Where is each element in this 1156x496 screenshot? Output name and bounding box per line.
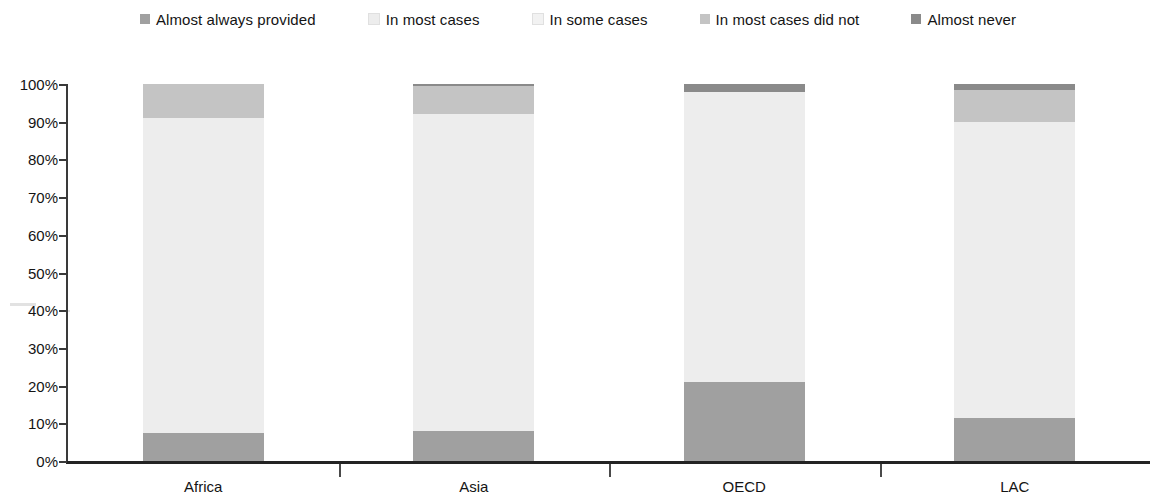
y-axis-tick-label: 20% [28, 377, 58, 394]
y-axis-tick-label: 100% [20, 76, 58, 93]
bar-segment[interactable] [413, 431, 534, 461]
square-swatch-icon [368, 13, 380, 25]
legend-item-label: Almost always provided [156, 11, 316, 28]
legend-item: Almost never [911, 11, 1016, 28]
square-swatch-icon [700, 14, 710, 24]
legend-item-label: In most cases did not [716, 11, 860, 28]
x-axis-category-labels: AfricaAsiaOECDLAC [68, 478, 1150, 495]
y-axis-tick-labels: 0%10%20%30%40%50%60%70%80%90%100% [0, 84, 58, 461]
stacked-bar[interactable] [143, 84, 264, 461]
bar-group [339, 84, 610, 461]
bar-segment[interactable] [954, 90, 1075, 122]
stacked-bar[interactable] [413, 84, 534, 461]
y-axis-tick-mark [59, 348, 67, 350]
legend-item: In most cases did not [700, 11, 860, 28]
bar-segment[interactable] [143, 118, 264, 433]
legend-item: Almost always provided [140, 11, 316, 28]
legend-item: In some cases [532, 11, 648, 28]
y-axis-tick-label: 40% [28, 302, 58, 319]
y-axis-tick-label: 60% [28, 226, 58, 243]
bar-segment[interactable] [143, 433, 264, 461]
stacked-bar[interactable] [684, 84, 805, 461]
bar-segment[interactable] [684, 84, 805, 92]
bar-group [609, 84, 880, 461]
bar-group [880, 84, 1151, 461]
y-axis-tick-mark [59, 84, 67, 86]
bar-segment[interactable] [684, 92, 805, 382]
bar-segment[interactable] [954, 418, 1075, 461]
bar-segment[interactable] [413, 114, 534, 431]
y-axis-tick-mark [59, 122, 67, 124]
x-axis-category-label: Asia [339, 478, 610, 495]
square-swatch-icon [911, 14, 921, 24]
legend-item-label: Almost never [927, 11, 1016, 28]
square-swatch-icon [140, 14, 150, 24]
x-axis-category-label: LAC [880, 478, 1151, 495]
x-axis-tick-mark [609, 464, 611, 477]
legend-item-label: In some cases [550, 11, 648, 28]
y-axis-tick-mark [59, 273, 67, 275]
x-axis-tick-mark [880, 464, 882, 477]
y-axis-tick-mark [59, 159, 67, 161]
chart-legend: Almost always providedIn most casesIn so… [0, 0, 1156, 38]
legend-item-label: In most cases [386, 11, 480, 28]
bar-segment[interactable] [143, 84, 264, 118]
y-axis-tick-label: 80% [28, 151, 58, 168]
stacked-bar[interactable] [954, 84, 1075, 461]
bar-group [68, 84, 339, 461]
x-axis-category-label: Africa [68, 478, 339, 495]
bar-segment[interactable] [413, 86, 534, 114]
y-axis-tick-mark [59, 461, 67, 463]
y-axis-tick-label: 0% [36, 453, 58, 470]
square-swatch-icon [532, 13, 544, 25]
legend-item: In most cases [368, 11, 480, 28]
y-axis-tick-label: 50% [28, 264, 58, 281]
chart-plot-area: 0%10%20%30%40%50%60%70%80%90%100% Africa… [0, 38, 1156, 496]
y-axis-tick-label: 30% [28, 339, 58, 356]
bar-segment[interactable] [684, 382, 805, 461]
y-axis-tick-mark [59, 423, 67, 425]
y-axis-tick-mark [59, 197, 67, 199]
y-axis-tick-label: 90% [28, 113, 58, 130]
y-axis-tick-mark [59, 235, 67, 237]
y-axis-tick-mark [59, 310, 67, 312]
x-axis-category-label: OECD [609, 478, 880, 495]
y-axis-tick-label: 70% [28, 189, 58, 206]
x-axis-line [66, 461, 1150, 464]
stacked-bars [68, 84, 1150, 461]
x-axis-tick-mark [339, 464, 341, 477]
y-axis-tick-label: 10% [28, 415, 58, 432]
bar-segment[interactable] [954, 122, 1075, 418]
y-axis-tick-mark [59, 386, 67, 388]
